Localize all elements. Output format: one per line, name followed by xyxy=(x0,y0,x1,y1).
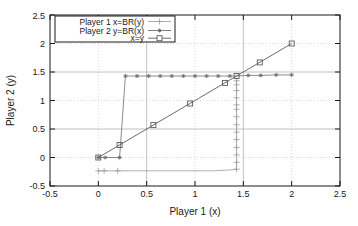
y-axis-title: Player 2 (y) xyxy=(5,75,16,126)
x-tick-label: 2.5 xyxy=(334,189,347,199)
series-player1-br xyxy=(95,78,239,174)
legend-label-xy: x=y xyxy=(131,33,145,43)
y-tick-label: 1.5 xyxy=(32,67,45,77)
x-tick-label: -0.5 xyxy=(42,189,58,199)
x-tick-labels: -0.5 0 0.5 1 1.5 2 2.5 xyxy=(42,189,346,199)
chart-canvas: -0.5 0 0.5 1 1.5 2 2.5 -0.5 0 0.5 1 1.5 … xyxy=(0,0,358,226)
y-tick-label: 2.5 xyxy=(32,11,45,21)
x-tick-label: 0 xyxy=(96,189,101,199)
x-tick-label: 2 xyxy=(289,189,294,199)
x-axis-title: Player 1 (x) xyxy=(169,206,220,217)
y-tick-label: 0.5 xyxy=(32,124,45,134)
y-tick-label: 0 xyxy=(40,153,45,163)
x-tick-label: 1.5 xyxy=(237,189,250,199)
y-tick-label: 2 xyxy=(40,39,45,49)
y-tick-labels: -0.5 0 0.5 1 1.5 2 2.5 xyxy=(29,11,45,192)
y-tick-label: 1 xyxy=(40,96,45,106)
legend: Player 1 x=BR(y) Player 2 y=BR(x) x=y xyxy=(55,16,175,43)
x-tick-label: 1 xyxy=(192,189,197,199)
series-player2-br xyxy=(96,73,293,160)
chart-figure: -0.5 0 0.5 1 1.5 2 2.5 -0.5 0 0.5 1 1.5 … xyxy=(0,0,358,226)
x-tick-label: 0.5 xyxy=(140,189,153,199)
